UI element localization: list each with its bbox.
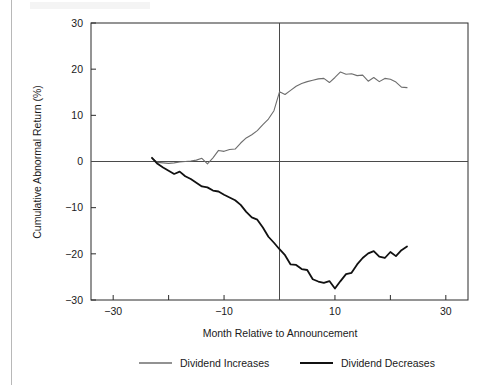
page-edge-artifact: [11, 0, 12, 385]
x-tick-label: −10: [215, 305, 233, 317]
x-tick-label: 10: [329, 305, 341, 317]
y-tick-label: −30: [65, 294, 83, 306]
legend-label-dividend-increases: Dividend Increases: [180, 357, 269, 369]
chart-legend: Dividend Increases Dividend Decreases: [139, 357, 435, 369]
y-tick-label: 0: [77, 155, 83, 167]
x-axis-ticks: −30−101030: [104, 295, 452, 317]
y-tick-label: 30: [71, 17, 83, 29]
y-tick-label: −10: [65, 201, 83, 213]
cumulative-abnormal-return-chart: −30−20−100102030 −30−101030 Cumulative A…: [0, 0, 495, 385]
x-tick-label: 30: [440, 305, 452, 317]
scan-smudge-artifact: [30, 2, 150, 9]
y-axis-title: Cumulative Abnormal Return (%): [31, 85, 43, 238]
chart-figure: −30−20−100102030 −30−101030 Cumulative A…: [0, 0, 495, 385]
x-tick-label: −30: [104, 305, 122, 317]
y-tick-label: 10: [71, 109, 83, 121]
y-tick-label: 20: [71, 63, 83, 75]
x-axis-title: Month Relative to Announcement: [203, 327, 358, 339]
legend-label-dividend-decreases: Dividend Decreases: [341, 357, 435, 369]
y-tick-label: −20: [65, 248, 83, 260]
